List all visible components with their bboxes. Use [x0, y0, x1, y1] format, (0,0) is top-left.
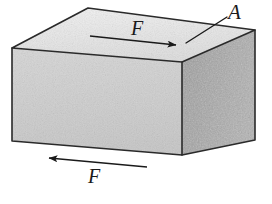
- shear-block-figure: A F F: [0, 0, 272, 204]
- front-face: [12, 48, 182, 155]
- bottom-force-label: F: [88, 166, 100, 186]
- top-force-label: F: [131, 18, 143, 38]
- area-label: A: [228, 2, 241, 23]
